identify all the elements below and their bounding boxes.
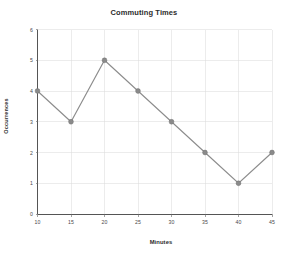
x-tick-label: 45 — [269, 219, 275, 225]
x-tick-label: 35 — [202, 219, 208, 225]
y-tick-label: 0 — [30, 211, 33, 217]
x-tick-label: 10 — [35, 219, 41, 225]
data-point-marker — [236, 181, 241, 186]
x-tick-label: 30 — [169, 219, 175, 225]
data-point-marker — [270, 150, 275, 155]
y-tick-label: 1 — [30, 180, 33, 186]
y-tick-label: 3 — [30, 119, 33, 125]
y-tick-labels: 0123456 — [30, 27, 33, 218]
data-point-marker — [136, 89, 141, 94]
y-tick-label: 5 — [30, 57, 33, 63]
data-point-marker — [169, 119, 174, 124]
plot-area: 0123456 1015202530354045 — [0, 0, 288, 258]
x-tick-label: 25 — [135, 219, 141, 225]
data-point-marker — [69, 119, 74, 124]
y-tick-label: 4 — [30, 88, 33, 94]
data-point-marker — [102, 58, 107, 63]
x-tick-label: 15 — [68, 219, 74, 225]
y-tick-label: 6 — [30, 27, 33, 33]
y-tick-label: 2 — [30, 150, 33, 156]
chart-container: Commuting Times Occurrences Minutes 0123… — [0, 0, 288, 258]
data-point-marker — [203, 150, 208, 155]
x-tick-labels: 1015202530354045 — [35, 219, 275, 225]
x-tick-label: 40 — [236, 219, 242, 225]
data-point-marker — [35, 89, 40, 94]
x-tick-label: 20 — [102, 219, 108, 225]
